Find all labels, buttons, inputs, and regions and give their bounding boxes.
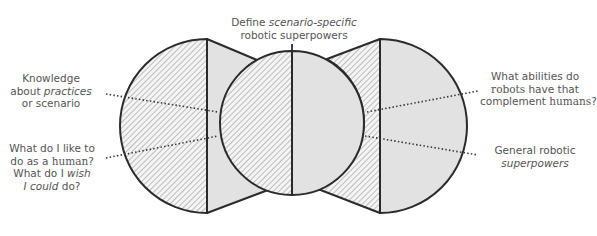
- title-label: Define scenario-specific robotic superpo…: [215, 16, 373, 41]
- label-knowledge: Knowledge about practices or scenario: [6, 72, 96, 110]
- label-human-wishes: What do I like to do as a human? What do…: [4, 142, 100, 192]
- label-general-superpowers: General robotic superpowers: [490, 144, 580, 169]
- left-circle-hatched-half: [120, 39, 207, 213]
- right-circle-gray-half: [380, 39, 467, 213]
- label-robot-abilities: What abilities do robots have that compl…: [480, 70, 590, 108]
